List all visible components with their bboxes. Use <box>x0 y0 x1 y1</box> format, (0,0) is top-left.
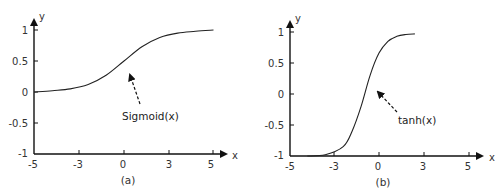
caption-a: (a) <box>121 174 136 186</box>
x-tick-label: 3 <box>420 161 426 172</box>
x-tick-label: -3 <box>73 159 83 170</box>
y-tick-label: 0 <box>278 89 284 100</box>
x-tick-label: 0 <box>375 161 381 172</box>
chart-a: y x 1 0.5 0 -0.5 -1 -5 -3 0 3 5 Sigmoid(… <box>8 11 238 186</box>
y-tick-label: 1 <box>278 27 284 38</box>
x-tick-label: -5 <box>28 159 38 170</box>
x-tick-label: -5 <box>285 161 295 172</box>
y-tick-label: 0.5 <box>268 58 284 69</box>
y-tick-label: -0.5 <box>8 118 28 129</box>
x-tick-label: -3 <box>329 161 339 172</box>
y-axis-label: y <box>39 11 45 22</box>
annotation-arrow <box>378 92 397 112</box>
y-axis-label: y <box>295 13 301 24</box>
figure: y x 1 0.5 0 -0.5 -1 -5 -3 0 3 5 Sigmoid(… <box>0 0 504 194</box>
x-axis-label: x <box>489 152 495 163</box>
chart-b: y x 1 0.5 0 -0.5 -1 -5 -3 0 3 5 tanh(x) … <box>264 13 495 188</box>
y-tick-label: -1 <box>18 148 28 159</box>
x-axis-label: x <box>232 150 238 161</box>
annotation-arrow <box>130 75 140 104</box>
caption-b: (b) <box>376 176 391 188</box>
y-tick-label: 0.5 <box>12 56 28 67</box>
y-tick-label: -0.5 <box>264 120 284 131</box>
sigmoid-curve <box>35 30 214 92</box>
y-tick-label: 1 <box>22 25 28 36</box>
x-tick-label: 5 <box>465 161 471 172</box>
tanh-curve <box>307 34 414 156</box>
x-tick-label: 3 <box>166 159 172 170</box>
sigmoid-annotation: Sigmoid(x) <box>122 110 179 122</box>
y-tick-label: 0 <box>22 87 28 98</box>
x-tick-label: 0 <box>120 159 126 170</box>
x-tick-label: 5 <box>208 159 214 170</box>
tanh-annotation: tanh(x) <box>398 114 436 126</box>
y-tick-label: -1 <box>274 150 284 161</box>
